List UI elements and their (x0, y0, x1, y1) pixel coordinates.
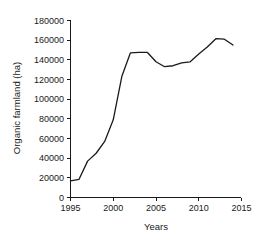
y-tick-label-100000: 100000 (34, 94, 64, 104)
x-axis-title: Years (144, 221, 168, 232)
y-tick-label-160000: 160000 (34, 35, 64, 45)
x-tick-label-2015: 2015 (231, 203, 251, 213)
chart-figure: 180000 160000 140000 120000 100000 80000… (0, 0, 275, 242)
y-tick-label-40000: 40000 (39, 153, 64, 163)
x-tick-label-2005: 2005 (146, 203, 166, 213)
x-tick-label-1995: 1995 (60, 203, 80, 213)
y-tick-label-0: 0 (59, 193, 64, 203)
y-tick-label-180000: 180000 (34, 16, 64, 26)
y-axis-title: Organic farmland (ha) (11, 62, 22, 154)
data-series-line (71, 39, 233, 181)
line-chart: 180000 160000 140000 120000 100000 80000… (0, 0, 275, 242)
y-axis-ticks (67, 21, 70, 198)
x-tick-label-2010: 2010 (189, 203, 209, 213)
y-tick-label-60000: 60000 (39, 134, 64, 144)
y-tick-label-120000: 120000 (34, 75, 64, 85)
y-tick-label-140000: 140000 (34, 55, 64, 65)
x-tick-label-2000: 2000 (103, 203, 123, 213)
y-tick-label-80000: 80000 (39, 114, 64, 124)
y-tick-label-20000: 20000 (39, 173, 64, 183)
